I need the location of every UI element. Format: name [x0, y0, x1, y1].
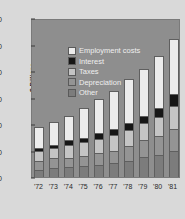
bar-segment: [79, 108, 89, 138]
y-tick-mark: [31, 98, 35, 99]
y-tick-label: 20: [0, 122, 2, 129]
bar-segment: [169, 106, 179, 129]
bar-segment: [64, 145, 74, 158]
bar-segment: [49, 148, 59, 158]
bar-segment: [109, 151, 119, 163]
bar-segment: [124, 146, 134, 161]
bar-segment: [64, 167, 74, 177]
bar-segment: [109, 163, 119, 177]
bar-segment: [79, 142, 89, 156]
bar-stack: [34, 127, 44, 177]
bar-segment: [94, 153, 104, 164]
bar-segment: [154, 155, 164, 177]
bar-segment: [49, 158, 59, 168]
bar-segment: [34, 127, 44, 148]
y-tick-mark: [31, 19, 35, 20]
bar-segment: [79, 166, 89, 177]
bar-segment: [124, 161, 134, 177]
bar-segment: [139, 140, 149, 156]
bar-stack: [109, 91, 119, 177]
bar-segment: [94, 165, 104, 177]
bar-segment: [154, 136, 164, 156]
legend-swatch-icon: [68, 78, 76, 86]
bar-segment: [109, 135, 119, 151]
bar-segment: [154, 117, 164, 136]
bar-stack: [49, 122, 59, 177]
legend-swatch-icon: [68, 57, 76, 65]
bar-segment: [49, 122, 59, 145]
bar-stack: [64, 116, 74, 177]
bar-stack: [154, 56, 164, 177]
bar-segment: [154, 56, 164, 108]
y-tick-mark: [31, 125, 35, 126]
y-tick-mark: [31, 45, 35, 46]
bar-segment: [64, 158, 74, 168]
y-tick-mark: [31, 178, 35, 179]
bar-segment: [154, 108, 164, 116]
bar-segment: [94, 139, 104, 154]
legend-item: Employment costs: [68, 46, 140, 56]
chart-legend: Employment costsInterestTaxesDepreciatio…: [68, 46, 140, 98]
bar-segment: [34, 161, 44, 170]
legend-label: Employment costs: [79, 46, 140, 55]
y-tick-mark: [31, 72, 35, 73]
bar-segment: [169, 94, 179, 106]
y-tick-label: 30: [0, 95, 2, 102]
y-tick-mark: [31, 151, 35, 152]
bar-segment: [139, 123, 149, 140]
y-tick-label: 0: [0, 175, 2, 182]
legend-label: Taxes: [79, 67, 99, 76]
legend-item: Taxes: [68, 67, 140, 77]
bar-segment: [34, 170, 44, 177]
bar-stack: [169, 39, 179, 177]
bar-segment: [124, 130, 134, 146]
legend-swatch-icon: [68, 68, 76, 76]
legend-item: Depreciation: [68, 78, 140, 88]
bar-segment: [34, 151, 44, 161]
legend-item: Interest: [68, 57, 140, 67]
legend-label: Depreciation: [79, 78, 121, 87]
bar-segment: [169, 129, 179, 151]
bar-segment: [49, 168, 59, 177]
plot-area: Employment costsInterestTaxesDepreciatio…: [31, 19, 180, 178]
bar-segment: [139, 116, 149, 123]
legend-swatch-icon: [68, 47, 76, 55]
bar-segment: [169, 39, 179, 94]
y-tick-label: 40: [0, 69, 2, 76]
y-tick-label: 50: [0, 42, 2, 49]
bar-segment: [169, 151, 179, 178]
bar-stack: [94, 99, 104, 177]
bar-segment: [139, 157, 149, 177]
bar-segment: [79, 156, 89, 167]
bar-segment: [94, 99, 104, 133]
legend-label: Other: [79, 88, 98, 97]
bar-segment: [64, 116, 74, 141]
legend-swatch-icon: [68, 89, 76, 97]
legend-item: Other: [68, 88, 140, 98]
y-tick-label: 60: [0, 16, 2, 23]
chart-figure: $ Billions Employment costsInterestTaxes…: [0, 0, 185, 219]
y-tick-label: 10: [0, 148, 2, 155]
bar-stack: [79, 108, 89, 177]
x-tick-label: '81: [163, 183, 183, 190]
legend-label: Interest: [79, 57, 104, 66]
